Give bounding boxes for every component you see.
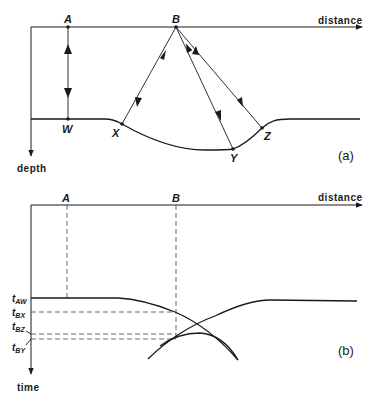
t-by-leader	[26, 339, 31, 345]
t-aw-label: tAW	[12, 293, 28, 305]
label-w: W	[62, 123, 74, 135]
point-a-dot	[66, 25, 70, 29]
time-label: time	[17, 382, 40, 393]
label-y: Y	[230, 152, 239, 164]
distance-label-b: distance	[318, 192, 363, 203]
reflector-interface	[31, 119, 360, 150]
arrow-down-icon	[237, 97, 243, 107]
arrow-down-icon	[135, 97, 142, 107]
t-bx-label: tBX	[12, 307, 26, 319]
point-y-dot	[231, 147, 235, 151]
label-a-b: A	[61, 192, 70, 204]
panel-b-label: (b)	[338, 343, 354, 358]
ray-b-x	[122, 27, 176, 124]
panel-b: A B tAW tBX tBZ tBY distance time (b)	[12, 192, 363, 393]
panel-a-label: (a)	[338, 148, 354, 163]
label-x: X	[111, 127, 120, 139]
left-reflection-curve	[31, 298, 238, 360]
focus-arc-curve	[160, 333, 238, 360]
seismic-diagram: A B W X Y Z distance depth (a) A B tAW t…	[0, 0, 373, 403]
label-b: B	[172, 13, 180, 25]
right-reflection-curve	[148, 300, 357, 359]
t-by-label: tBY	[12, 342, 26, 354]
arrow-up-icon	[64, 44, 72, 54]
t-bz-label: tBZ	[12, 321, 25, 333]
depth-label: depth	[17, 163, 47, 174]
t-bz-leader	[26, 331, 31, 334]
arrow-down-icon	[64, 88, 72, 98]
point-x-dot	[120, 122, 124, 126]
label-z: Z	[263, 130, 272, 142]
arrow-up-icon	[183, 42, 192, 53]
point-w-dot	[66, 117, 70, 121]
label-b-b: B	[172, 192, 180, 204]
panel-a: A B W X Y Z distance depth (a)	[17, 13, 363, 174]
label-a: A	[63, 13, 72, 25]
ray-b-y	[176, 27, 233, 149]
distance-label-a: distance	[318, 15, 363, 26]
point-b-dot	[174, 25, 178, 29]
